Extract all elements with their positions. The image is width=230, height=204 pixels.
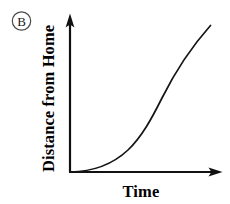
data-curve-distance-from-home xyxy=(70,26,211,173)
figure-panel-b: B Distance from Home Time xyxy=(0,0,230,204)
y-axis-title: Distance from Home xyxy=(39,25,58,172)
y-axis xyxy=(66,14,75,173)
panel-label-letter: B xyxy=(17,14,26,29)
panel-label-badge: B xyxy=(12,12,30,30)
x-axis-title: Time xyxy=(122,182,159,201)
distance-vs-time-chart: B Distance from Home Time xyxy=(0,0,230,204)
